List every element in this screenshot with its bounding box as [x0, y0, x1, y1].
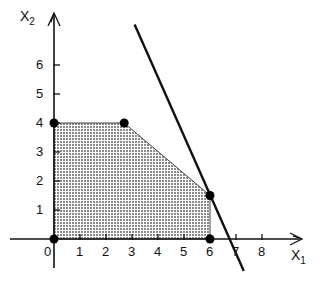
- x-tick-label: 8: [258, 245, 265, 258]
- y-tick-label: 2: [36, 174, 43, 187]
- vertex-point: [206, 235, 215, 244]
- x-tick-label: 3: [128, 245, 135, 258]
- vertex-point: [206, 191, 215, 200]
- y-axis-label-sub: 2: [29, 16, 35, 27]
- x-tick-label: 5: [180, 245, 187, 258]
- y-tick-label: 3: [36, 145, 43, 158]
- y-axis-label: X2: [20, 8, 35, 27]
- lp-feasible-region-chart: [0, 0, 320, 285]
- y-tick-label: 5: [36, 87, 43, 100]
- vertex-point: [50, 235, 59, 244]
- x-axis-label-sub: 1: [300, 255, 306, 266]
- y-axis-label-main: X: [20, 8, 29, 24]
- x-axis-label: X1: [291, 247, 306, 266]
- x-tick-label: 1: [76, 245, 83, 258]
- x-axis-label-main: X: [291, 247, 300, 263]
- y-tick-label: 6: [36, 58, 43, 71]
- x-tick-label: 7: [232, 245, 239, 258]
- y-tick-label: 1: [36, 203, 43, 216]
- y-tick-label: 4: [36, 116, 43, 129]
- vertex-point: [50, 119, 59, 128]
- vertex-point: [120, 119, 129, 128]
- x-tick-label: 2: [102, 245, 109, 258]
- x-tick-label: 4: [154, 245, 161, 258]
- x-tick-label: 6: [206, 245, 213, 258]
- x-tick-label: 0: [44, 245, 51, 258]
